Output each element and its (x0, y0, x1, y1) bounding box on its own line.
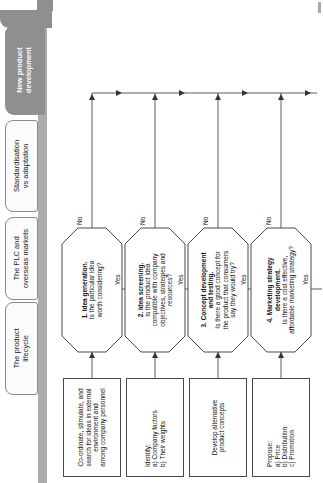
decision-text-idea-screening: 2. Idea screening. Is the product idea c… (127, 230, 183, 350)
source-box-idea-screening: Identify: a) Company factors b) Their we… (126, 378, 184, 477)
no-label-2: No (139, 217, 146, 225)
arrowhead-down-icon (305, 90, 311, 96)
no-label-3: No (202, 217, 209, 225)
decision-title: 3. Concept development and testing. (200, 252, 215, 327)
yes-label-1: Yes (114, 274, 121, 285)
no-label-4: No (265, 217, 272, 225)
arrowhead-right-icon (152, 352, 158, 358)
decision-title: 2. Idea screening. (137, 263, 144, 318)
arrowhead-down-icon (116, 90, 122, 96)
workbook-page: The product lifecycle The PLC and overse… (0, 0, 323, 483)
arrowhead-down-icon (179, 90, 185, 96)
decision-question: Is there a cost effective, affordable ma… (281, 246, 296, 334)
yes-label-3: Yes (240, 274, 247, 285)
arrowhead-right-icon (215, 94, 221, 100)
source-box-idea-generation: Co-ordinate, stimulate, and search for i… (63, 378, 121, 477)
arrowhead-right-icon (215, 352, 221, 358)
arrowhead-right-icon (89, 94, 95, 100)
decision-title: 4. Marketing strategy development. (266, 257, 281, 322)
no-label-1: No (76, 217, 83, 225)
source-box-marketing-strategy: Propose: a) Price b) Distribution c) Pro… (252, 378, 310, 477)
decision-question: Is the particular idea worth considering… (88, 261, 103, 320)
decision-text-marketing-strategy: 4. Marketing strategy development. Is th… (253, 230, 309, 350)
rotated-page-screenshot: The product lifecycle The PLC and overse… (0, 0, 323, 483)
yes-label-2: Yes (177, 274, 184, 285)
decision-title: 1. Idea generation. (81, 261, 88, 318)
arrowhead-right-icon (152, 94, 158, 100)
source-box-concept-development: Develop alternative product concepts (189, 378, 247, 477)
decision-question: Is the product idea compatible with comp… (144, 253, 173, 326)
arrowhead-right-icon (89, 352, 95, 358)
arrowhead-down-icon (242, 90, 248, 96)
decision-text-idea-generation: 1. Idea generation. Is the particular id… (64, 230, 120, 350)
decision-text-concept-development: 3. Concept development and testing. Is t… (190, 230, 246, 350)
arrowhead-right-icon (278, 94, 284, 100)
decision-question: Is there a good concept for the product … (214, 251, 236, 330)
arrowhead-right-icon (278, 352, 284, 358)
yes-label-4: Yes (302, 274, 309, 285)
